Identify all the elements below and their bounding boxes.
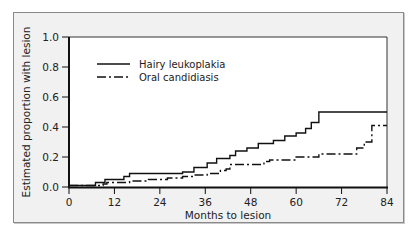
x-tick-label: 72 xyxy=(335,196,348,208)
x-tick-label: 84 xyxy=(380,196,394,208)
y-tick-label: 1.0 xyxy=(42,31,59,43)
x-axis-title: Months to lesion xyxy=(185,209,271,221)
y-tick-label: 0.6 xyxy=(42,91,59,103)
y-axis-ticks: 0.00.20.40.60.81.0 xyxy=(42,31,69,193)
legend-label: Oral candidiasis xyxy=(139,72,219,83)
y-tick-label: 0.2 xyxy=(42,151,59,163)
y-tick-label: 0.8 xyxy=(42,61,59,73)
x-tick-label: 12 xyxy=(108,196,121,208)
y-tick-label: 0.4 xyxy=(42,121,59,133)
x-tick-label: 36 xyxy=(199,196,213,208)
y-tick-label: 0.0 xyxy=(42,181,59,193)
x-tick-label: 24 xyxy=(153,196,167,208)
x-tick-label: 0 xyxy=(66,196,73,208)
legend-label: Hairy leukoplakia xyxy=(139,59,225,70)
x-tick-label: 48 xyxy=(244,196,257,208)
kaplan-meier-chart: 012243648607284 0.00.20.40.60.81.0 Month… xyxy=(0,0,416,246)
x-axis-ticks: 012243648607284 xyxy=(66,188,394,208)
x-tick-label: 60 xyxy=(289,196,302,208)
y-axis-title: Estimated proportion with lesion xyxy=(20,27,32,198)
